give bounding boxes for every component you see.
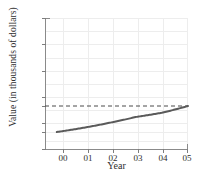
y-axis-title: Value (in thousands of dollars) [8, 0, 18, 142]
x-axis-title: Year [45, 160, 188, 171]
series-layer [45, 18, 188, 150]
value-curve [57, 106, 188, 132]
plot-area: 75 60 45 30 25 15 10 0 00 01 02 03 04 05 [45, 18, 188, 150]
line-chart: Value (in thousands of dollars) [0, 0, 201, 187]
